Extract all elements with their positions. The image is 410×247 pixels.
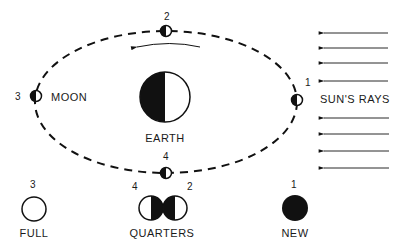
- last-quarter-moon-icon: [139, 196, 163, 220]
- moon-position-3-number: 3: [15, 91, 21, 102]
- moon-position-1-number: 1: [305, 77, 311, 88]
- full-moon-icon: [22, 197, 46, 221]
- moon-phases-diagram: EARTH 2 3 MOON 1 4 SUN'S RAYS 3 FULL 4: [0, 0, 410, 247]
- earth-label: EARTH: [145, 132, 185, 144]
- new-phase-label: NEW: [281, 227, 308, 239]
- new-moon-icon: [282, 195, 308, 221]
- full-phase-label: FULL: [20, 227, 49, 239]
- moon-label: MOON: [51, 91, 87, 103]
- quarter-phase-number-4: 4: [132, 181, 138, 192]
- moon-position-1-icon: [292, 95, 303, 106]
- moon-position-4-number: 4: [163, 151, 169, 162]
- quarter-phase-number-2: 2: [187, 181, 193, 192]
- sun-rays-label: SUN'S RAYS: [320, 93, 390, 105]
- moon-position-2-number: 2: [164, 11, 170, 22]
- moon-position-3-icon: [31, 91, 42, 102]
- earth-icon: [140, 72, 190, 122]
- full-phase-number: 3: [30, 179, 36, 190]
- quarters-phase-label: QUARTERS: [130, 227, 195, 239]
- orbit-direction-arrow: [137, 44, 200, 48]
- moon-position-4-icon: [161, 168, 172, 179]
- new-phase-number: 1: [291, 179, 297, 190]
- first-quarter-moon-icon: [163, 196, 187, 220]
- moon-position-2-icon: [161, 26, 172, 37]
